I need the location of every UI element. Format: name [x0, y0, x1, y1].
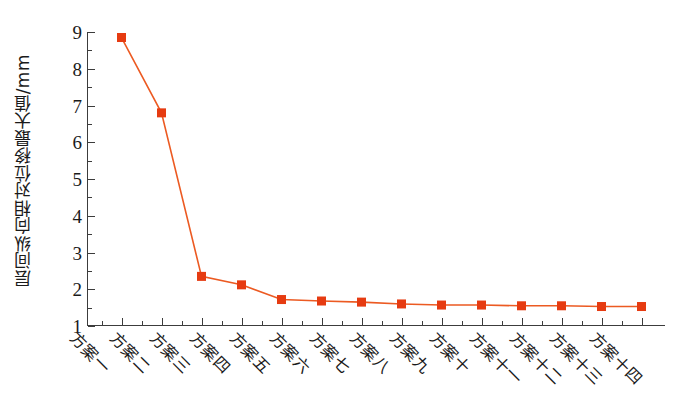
data-point-marker	[237, 280, 246, 289]
y-tick-label: 5	[73, 170, 83, 189]
data-point-marker	[597, 302, 606, 311]
data-point-marker	[157, 108, 166, 117]
x-tick-label: 方案四	[186, 330, 232, 376]
x-tick-label: 方案三	[146, 330, 192, 376]
data-point-marker	[117, 33, 126, 42]
data-point-marker	[317, 297, 326, 306]
data-point-marker	[637, 302, 646, 311]
data-point-marker	[517, 301, 526, 310]
y-tick-label: 9	[73, 23, 83, 42]
x-tick-label: 方案五	[226, 330, 272, 376]
y-tick-label: 7	[73, 96, 83, 115]
series-markers	[117, 33, 646, 311]
y-tick-label: 4	[73, 206, 83, 225]
x-tick-label: 方案九	[386, 330, 432, 376]
y-tick-label: 8	[73, 59, 83, 78]
x-tick-label: 方案十	[426, 330, 472, 376]
data-point-marker	[437, 301, 446, 310]
y-axis-title: 层间纵向相对位移最大值/mm	[0, 0, 46, 340]
x-tick-label: 方案八	[346, 330, 392, 376]
data-point-marker	[357, 298, 366, 307]
series-line	[122, 38, 642, 307]
x-axis-tick-labels: 方案一方案二方案三方案四方案五方案六方案七方案八方案九方案十方案十一方案十二方案…	[87, 330, 687, 416]
data-point-marker	[277, 295, 286, 304]
y-tick-label: 2	[73, 280, 83, 299]
data-point-marker	[397, 299, 406, 308]
y-tick-major: 1	[88, 326, 95, 327]
x-tick-label: 方案七	[306, 330, 352, 376]
data-series	[87, 32, 665, 326]
y-tick-label: 3	[73, 243, 83, 262]
x-tick-label: 方案六	[266, 330, 312, 376]
data-point-marker	[557, 301, 566, 310]
x-tick-label: 方案二	[106, 330, 152, 376]
y-axis-title-text: 层间纵向相对位移最大值/mm	[15, 54, 32, 287]
chart-figure: 层间纵向相对位移最大值/mm 123456789 方案一方案二方案三方案四方案五…	[0, 0, 690, 416]
y-tick-label: 6	[73, 133, 83, 152]
data-point-marker	[197, 272, 206, 281]
data-point-marker	[477, 301, 486, 310]
x-tick-label: 方案一	[66, 330, 112, 376]
plot-area: 123456789	[87, 32, 665, 326]
